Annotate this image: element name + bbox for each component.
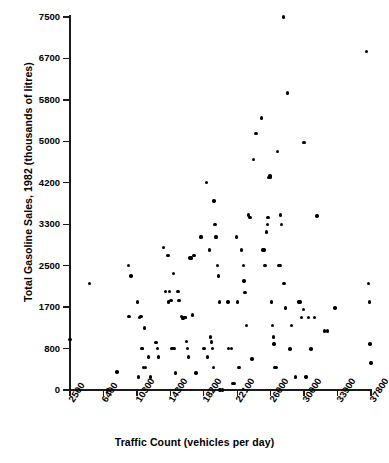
y-tick (63, 265, 69, 266)
data-point (162, 246, 165, 249)
data-point (333, 306, 336, 309)
y-tick (63, 224, 69, 225)
y-tick (63, 348, 69, 349)
data-point (168, 290, 171, 293)
y-tick-label: 1700 (39, 301, 60, 312)
data-point (275, 366, 278, 369)
data-point (193, 254, 196, 257)
y-tick (63, 182, 69, 183)
data-point (279, 213, 282, 216)
data-point (309, 347, 312, 350)
data-point (270, 300, 273, 303)
data-point (166, 254, 169, 257)
data-point (143, 326, 146, 329)
data-point (280, 223, 283, 226)
data-point (300, 316, 303, 319)
y-tick (63, 16, 69, 17)
data-point (154, 341, 157, 344)
x-axis-title: Traffic Count (vehicles per day) (0, 436, 389, 448)
plot-area (70, 17, 371, 390)
data-point (302, 308, 305, 311)
y-tick-label: 4200 (39, 177, 60, 188)
data-point (211, 347, 214, 350)
data-point (236, 300, 239, 303)
data-point (149, 375, 152, 378)
y-tick (63, 58, 69, 59)
data-point (221, 388, 224, 391)
data-point (215, 235, 218, 238)
y-tick-label: 0 (55, 384, 60, 395)
y-tick-label: 3300 (39, 218, 60, 229)
data-point (250, 357, 253, 360)
y-tick-label: 7500 (39, 11, 60, 22)
data-point (164, 290, 167, 293)
data-point (230, 347, 233, 350)
data-point (304, 375, 307, 378)
data-point (262, 248, 265, 251)
data-point (115, 370, 118, 373)
data-point (282, 282, 285, 285)
data-point (174, 371, 177, 374)
data-point (240, 248, 243, 251)
data-point (206, 355, 209, 358)
data-point (284, 306, 287, 309)
data-point (141, 347, 144, 350)
data-point (137, 375, 140, 378)
data-point (243, 291, 246, 294)
y-tick-label: 2500 (39, 260, 60, 271)
data-point (252, 158, 255, 161)
data-point (127, 315, 130, 318)
data-point (272, 342, 275, 345)
data-point (127, 264, 130, 267)
data-point (368, 300, 371, 303)
data-point (248, 216, 251, 219)
data-point (286, 91, 289, 94)
data-point (210, 340, 213, 343)
data-point (68, 338, 71, 341)
y-tick-label: 6700 (39, 52, 60, 63)
data-point (177, 299, 180, 302)
data-point (212, 199, 215, 202)
data-point (272, 335, 275, 338)
data-point (290, 324, 293, 327)
data-point (218, 300, 221, 303)
data-point (226, 300, 229, 303)
data-point (172, 272, 175, 275)
data-point (205, 181, 208, 184)
data-point (245, 324, 248, 327)
data-point (326, 329, 329, 332)
data-point (191, 313, 194, 316)
data-point (269, 176, 272, 179)
data-point (307, 316, 310, 319)
data-point (136, 300, 139, 303)
data-point (235, 235, 238, 238)
y-tick-label: 5000 (39, 135, 60, 146)
y-axis-title: Total Gasoline Sales, 1982 (thousands of… (22, 32, 34, 332)
scatter-plot-figure: Total Gasoline Sales, 1982 (thousands of… (0, 0, 389, 463)
y-tick (63, 306, 69, 307)
data-point (264, 264, 267, 267)
data-point (302, 141, 305, 144)
data-point (217, 274, 220, 277)
data-point (170, 299, 173, 302)
data-point (186, 347, 189, 350)
data-point (242, 264, 245, 267)
data-point (213, 223, 216, 226)
data-point (88, 282, 91, 285)
data-point (367, 282, 370, 285)
data-point (144, 366, 147, 369)
data-point (242, 279, 245, 282)
data-point (147, 355, 150, 358)
y-tick-label: 800 (44, 343, 60, 354)
data-point (313, 316, 316, 319)
y-tick (63, 389, 69, 390)
data-point (368, 342, 371, 345)
data-point (315, 214, 318, 217)
data-point (271, 324, 274, 327)
y-tick (63, 141, 69, 142)
data-point (278, 264, 281, 267)
data-point (212, 366, 215, 369)
data-point (260, 116, 263, 119)
data-point (237, 366, 240, 369)
data-point (233, 382, 236, 385)
